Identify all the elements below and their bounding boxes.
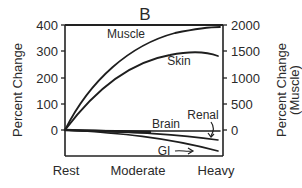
y-tick-0: 0: [51, 123, 58, 138]
right-axis-labels: 2000 1500 1000 500 0: [231, 18, 260, 138]
x-tick-heavy: Heavy: [198, 163, 235, 178]
left-axis-labels: 400 300 200 100 0: [36, 18, 58, 138]
label-muscle: Muscle: [107, 27, 145, 41]
label-renal: Renal: [187, 108, 218, 122]
y-right-tick-500: 500: [231, 97, 253, 112]
label-skin: Skin: [167, 54, 190, 68]
y-tick-300: 300: [36, 44, 58, 59]
blood-flow-chart: B 400 300 200 100 0 2000 1500 1000 500 0…: [0, 0, 302, 188]
renal-arrow: [211, 122, 213, 136]
x-axis-labels: Rest Moderate Heavy: [53, 163, 235, 178]
y-right-tick-1000: 1000: [231, 71, 260, 86]
x-tick-moderate: Moderate: [111, 163, 166, 178]
y-right-tick-1500: 1500: [231, 44, 260, 59]
y-axis-title-right-line2: (Muscle): [287, 65, 302, 115]
y-right-tick-0: 0: [231, 123, 238, 138]
y-tick-200: 200: [36, 71, 58, 86]
gi-arrow: [175, 151, 192, 152]
y-tick-100: 100: [36, 97, 58, 112]
y-axis-title-left: Percent Change: [10, 43, 25, 137]
y-tick-400: 400: [36, 18, 58, 33]
x-tick-rest: Rest: [53, 163, 80, 178]
label-brain: Brain: [152, 117, 180, 131]
chart-title: B: [139, 5, 150, 24]
label-gi: GI: [158, 144, 171, 158]
y-right-tick-2000: 2000: [231, 18, 260, 33]
